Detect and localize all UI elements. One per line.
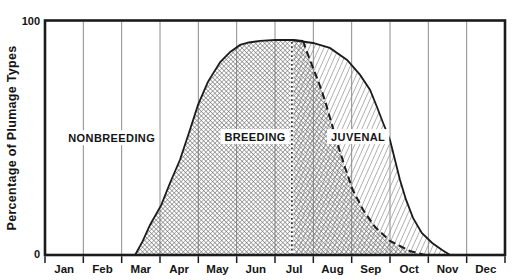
region-label-text: BREEDING <box>224 131 285 143</box>
month-label-apr: Apr <box>169 263 189 275</box>
month-label-nov: Nov <box>437 263 459 275</box>
month-label-mar: Mar <box>131 263 152 275</box>
region-label-breeding: BREEDING <box>220 129 289 144</box>
month-label-jan: Jan <box>54 263 74 275</box>
ytick-label-0: 0 <box>34 248 40 260</box>
month-label-aug: Aug <box>321 263 343 275</box>
month-label-sep: Sep <box>360 263 381 275</box>
ytick-label-100: 100 <box>22 15 40 27</box>
region-label-juvenal: JUVENAL <box>327 129 389 144</box>
month-label-dec: Dec <box>475 263 497 275</box>
month-label-oct: Oct <box>400 263 419 275</box>
y-axis-title: Percentage of Plumage Types <box>5 45 19 230</box>
region-labels: NONBREEDINGBREEDINGJUVENAL <box>64 129 389 145</box>
month-label-jul: Jul <box>286 263 303 275</box>
region-label-text: JUVENAL <box>331 131 385 143</box>
region-label-text: NONBREEDING <box>68 132 155 144</box>
plumage-phenology-figure: JanFebMarAprMayJunJulAugSepOctNovDec1000… <box>0 0 522 280</box>
plumage-phenology-chart: JanFebMarAprMayJunJulAugSepOctNovDec1000… <box>0 0 522 280</box>
month-label-jun: Jun <box>246 263 266 275</box>
month-label-may: May <box>206 263 229 275</box>
month-label-feb: Feb <box>92 263 112 275</box>
region-label-nonbreeding: NONBREEDING <box>64 130 159 145</box>
